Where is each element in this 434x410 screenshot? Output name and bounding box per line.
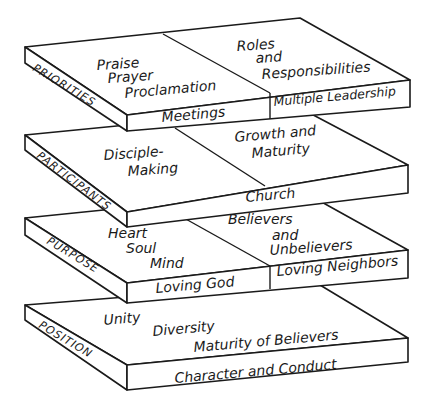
layer-priorities: PRIORITIES Praise Prayer Proclamation Ro… [25,18,410,131]
purpose-top-left-item-2: Soul [126,240,156,256]
purpose-top-left-item-3: Mind [150,255,184,271]
position-top-item-1: Unity [103,309,142,328]
layer-position: POSITION Unity Diversity Maturity of Bel… [25,282,408,390]
priorities-top-right-item-2: and [255,48,283,66]
layered-diagram: POSITION Unity Diversity Maturity of Bel… [0,0,434,410]
layer-participants: PARTICIPANTS Disciple- Making Growth and… [25,108,408,227]
